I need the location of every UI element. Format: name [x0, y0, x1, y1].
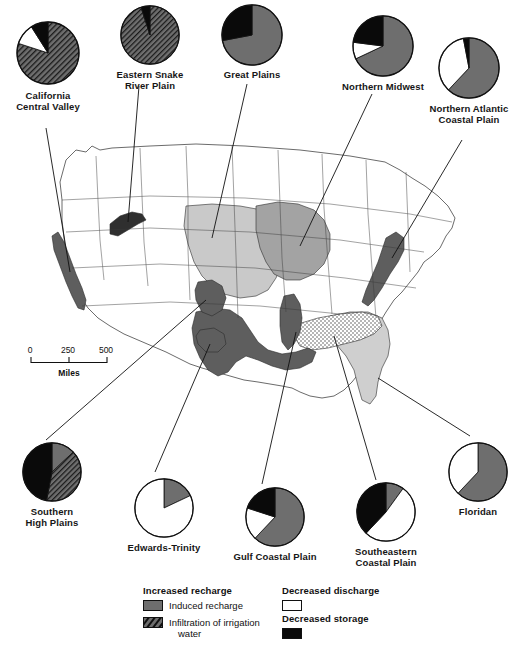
scale-tick-250: 250 [61, 345, 75, 355]
pie-slice [23, 443, 52, 501]
pie-northern-atlantic-coastal-plain[interactable]: Northern Atlantic Coastal Plain [427, 36, 511, 100]
pie-edwards-trinity[interactable]: Edwards-Trinity [122, 477, 206, 539]
scale-tick-500: 500 [99, 345, 113, 355]
legend-label: Induced recharge [169, 600, 243, 611]
pie-eastern-snake-river-plain[interactable]: Eastern Snake River Plain [110, 4, 190, 66]
swatch-decreased-storage [282, 628, 302, 639]
figure-root: California Central Valley Eastern Snake … [0, 0, 517, 651]
legend-heading: Increased recharge [143, 585, 298, 596]
map-scale-bar: 0 250 500 Miles [30, 345, 110, 378]
pie-chart[interactable] [21, 441, 83, 503]
pie-chart[interactable] [244, 486, 306, 548]
scale-bar-graphic [30, 356, 110, 365]
swatch-infiltration-of-irrigation-water [143, 617, 163, 628]
pie-great-plains[interactable]: Great Plains [212, 3, 292, 67]
leader-floridan [378, 378, 470, 436]
legend-heading: Decreased discharge [282, 585, 412, 596]
legend-item-decreased-discharge [282, 600, 412, 611]
swatch-induced-recharge [143, 600, 163, 611]
pie-gulf-coastal-plain[interactable]: Gulf Coastal Plain [230, 486, 320, 548]
pie-chart[interactable] [447, 441, 509, 503]
pie-label: Southern High Plains [0, 506, 122, 528]
pie-label: Great Plains [182, 69, 322, 80]
scale-unit-label: Miles [30, 368, 108, 378]
pie-california-central-valley[interactable]: California Central Valley [8, 20, 88, 86]
legend-decreased-storage: Decreased storage [282, 613, 412, 645]
pie-label: California Central Valley [0, 90, 118, 112]
pie-label: Southeastern Coastal Plain [316, 546, 456, 568]
legend-item-induced-recharge: Induced recharge [143, 600, 298, 611]
leader-edwards-trinity [155, 344, 210, 472]
pie-chart[interactable] [220, 3, 284, 67]
legend-item-decreased-storage [282, 628, 412, 639]
scale-tick-0: 0 [28, 345, 33, 355]
swatch-decreased-discharge [282, 600, 302, 611]
pie-floridan[interactable]: Floridan [443, 441, 513, 503]
pie-chart[interactable] [133, 477, 195, 539]
legend-increased-recharge: Increased recharge Induced recharge In [143, 585, 298, 645]
pie-chart[interactable] [437, 36, 501, 100]
legend-heading: Decreased storage [282, 613, 412, 624]
pie-label: Northern Atlantic Coastal Plain [399, 103, 517, 125]
pie-chart[interactable] [351, 14, 415, 78]
scale-tick-labels: 0 250 500 [30, 345, 106, 356]
legend-label-line2: water [169, 628, 260, 639]
legend-label-wrap: Infiltration of irrigation water [169, 617, 260, 639]
pie-chart[interactable] [119, 4, 181, 66]
pie-chart[interactable] [15, 20, 81, 86]
pie-slice [222, 5, 252, 41]
pie-southern-high-plains[interactable]: Southern High Plains [12, 441, 92, 503]
legend-label: Infiltration of irrigation [169, 617, 260, 628]
pie-northern-midwest[interactable]: Northern Midwest [338, 14, 428, 78]
legend-item-infiltration-of-irrigation-water: Infiltration of irrigation water [143, 617, 298, 639]
pie-label: Floridan [408, 506, 517, 517]
